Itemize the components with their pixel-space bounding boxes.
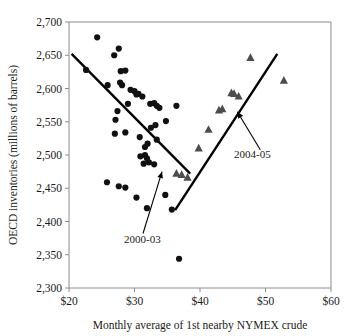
data-point-circle (173, 103, 179, 109)
data-point-circle (111, 52, 117, 58)
y-axis-title: OECD inventories (millions of barrels) (7, 65, 20, 245)
scatter-chart: 2,3002,3502,4002,4502,5002,5502,6002,650… (0, 0, 352, 336)
y-tick-label: 2,600 (36, 83, 62, 96)
data-point-circle (94, 34, 100, 40)
data-point-circle (152, 122, 158, 128)
data-point-circle (116, 183, 122, 189)
y-axis-tick-labels: 2,3002,3502,4002,4502,5002,5502,6002,650… (36, 16, 62, 295)
y-tick-label: 2,300 (36, 282, 62, 295)
x-tick-label: $40 (191, 295, 209, 307)
data-point-circle (83, 67, 89, 73)
data-point-circle (145, 141, 151, 147)
data-point-circle (122, 67, 128, 73)
data-point-circle (163, 118, 169, 124)
chart-canvas: 2,3002,3502,4002,4502,5002,5502,6002,650… (0, 0, 352, 336)
data-point-circle (176, 256, 182, 262)
x-tick-label: $30 (126, 295, 144, 307)
data-point-circle (112, 131, 118, 137)
x-axis-title: Monthly average of 1st nearby NYMEX crud… (93, 319, 308, 332)
data-point-circle (133, 194, 139, 200)
y-tick-label: 2,700 (36, 16, 62, 29)
data-point-circle (141, 161, 147, 167)
y-tick-label: 2,550 (36, 116, 62, 129)
x-tick-label: $60 (322, 295, 340, 307)
data-point-circle (114, 108, 120, 114)
data-point-circle (144, 205, 150, 211)
x-tick-label: $20 (60, 295, 78, 307)
y-tick-label: 2,500 (36, 149, 62, 162)
data-point-circle (117, 79, 123, 85)
y-tick-label: 2,650 (36, 49, 62, 62)
data-point-circle (122, 129, 128, 135)
annotation-label-2000-03: 2000-03 (124, 233, 161, 245)
data-point-circle (151, 161, 157, 167)
data-point-circle (156, 105, 162, 111)
x-tick-label: $50 (257, 295, 275, 307)
data-point-circle (125, 101, 131, 107)
y-tick-label: 2,400 (36, 216, 62, 229)
data-point-circle (139, 93, 145, 99)
data-point-circle (122, 184, 128, 190)
y-tick-label: 2,450 (36, 182, 62, 195)
data-point-circle (105, 82, 111, 88)
data-point-circle (137, 134, 143, 140)
data-point-circle (169, 206, 175, 212)
data-point-circle (112, 117, 118, 123)
y-tick-label: 2,350 (36, 249, 62, 262)
annotation-label-2004-05: 2004-05 (234, 148, 271, 160)
data-point-circle (162, 192, 168, 198)
data-point-circle (104, 179, 110, 185)
data-point-circle (154, 137, 160, 143)
data-point-circle (116, 46, 122, 52)
